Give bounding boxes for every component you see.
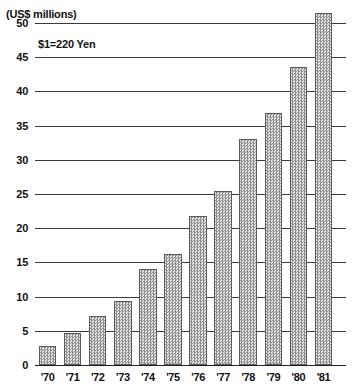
bar [139,269,157,365]
x-axis-tick-label: '73 [116,371,130,383]
x-axis-line [35,365,346,366]
y-axis-tick-label: 30 [4,154,28,166]
bar-chart: (US$ millions) $1=220 Yen 05101520253035… [0,0,364,390]
x-axis-tick-label: '77 [216,371,230,383]
gridline [35,23,346,24]
bar [189,216,207,365]
bar [64,333,82,365]
y-axis-tick-label: 35 [4,120,28,132]
bar [239,139,257,365]
bar [214,191,232,365]
bar [290,67,308,365]
x-axis-tick-label: '71 [66,371,80,383]
x-axis-tick-label: '74 [141,371,155,383]
gridline [35,57,346,58]
bar [164,254,182,365]
bar [39,346,57,365]
exchange-rate-annotation: $1=220 Yen [38,38,95,50]
x-axis-tick-label: '75 [166,371,180,383]
x-axis-tick-label: '81 [317,371,331,383]
bar [265,113,283,365]
x-axis-tick-label: '72 [91,371,105,383]
bar [114,301,132,365]
bar [89,316,107,365]
y-axis-tick-label: 25 [4,188,28,200]
y-axis-tick-label: 50 [4,17,28,29]
y-axis-tick-label: 0 [4,359,28,371]
x-axis-tick-label: '80 [292,371,306,383]
x-axis-tick-label: '76 [191,371,205,383]
y-axis-tick-label: 5 [4,325,28,337]
x-axis-tick-label: '78 [241,371,255,383]
x-axis-tick-label: '70 [41,371,55,383]
y-axis-tick-label: 15 [4,256,28,268]
y-axis-tick-label: 40 [4,85,28,97]
y-axis-tick-label: 45 [4,51,28,63]
x-axis-tick-label: '79 [266,371,280,383]
y-axis-tick-label: 20 [4,222,28,234]
bar [315,13,333,365]
y-axis-tick-label: 10 [4,291,28,303]
